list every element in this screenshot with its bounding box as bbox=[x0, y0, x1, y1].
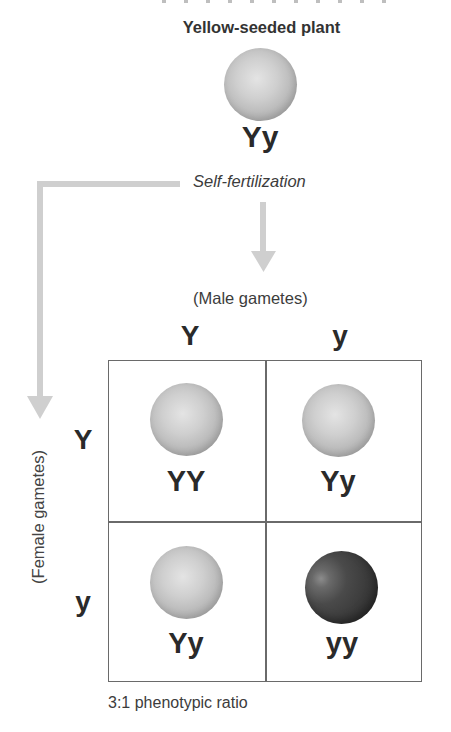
process-label: Self-fertilization bbox=[193, 172, 306, 191]
cell-genotype: yy bbox=[292, 627, 392, 660]
phenotypic-ratio-caption: 3:1 phenotypic ratio bbox=[108, 694, 248, 712]
parent-genotype: Yy bbox=[210, 120, 310, 154]
seed-icon-yellow bbox=[150, 383, 223, 456]
parent-seed-icon bbox=[224, 48, 297, 121]
seed-icon-yellow bbox=[150, 546, 223, 619]
parent-title: Yellow-seeded plant bbox=[0, 18, 451, 37]
cell-genotype: YY bbox=[136, 465, 236, 498]
grid-divider-horizontal bbox=[108, 521, 422, 523]
male-gamete-1: Y bbox=[165, 320, 215, 352]
female-gamete-2: y bbox=[63, 586, 103, 618]
cell-genotype: Yy bbox=[136, 627, 236, 660]
cell-genotype: Yy bbox=[288, 465, 388, 498]
arrow-shaft bbox=[260, 202, 266, 254]
arrow-down-icon bbox=[27, 396, 53, 420]
arrow-horizontal-bar bbox=[37, 181, 180, 187]
arrow-vertical-bar bbox=[37, 181, 43, 399]
cropped-text-remnant bbox=[150, 0, 400, 3]
male-gamete-2: y bbox=[315, 320, 365, 352]
female-gamete-1: Y bbox=[63, 424, 103, 456]
male-gametes-label: (Male gametes) bbox=[193, 289, 308, 308]
arrow-down-icon bbox=[251, 251, 276, 273]
female-gametes-label: (Female gametes) bbox=[29, 450, 48, 584]
seed-icon-yellow bbox=[302, 384, 375, 457]
seed-icon-green bbox=[305, 551, 378, 624]
